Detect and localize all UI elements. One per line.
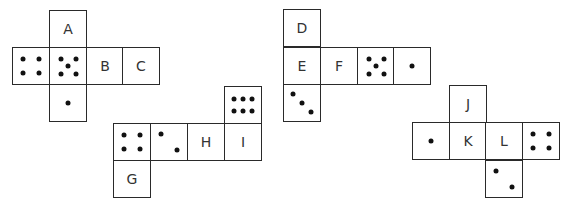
face-2-pips xyxy=(485,160,523,198)
face-l: L xyxy=(485,122,523,160)
face-j: J xyxy=(449,85,487,123)
face-label: K xyxy=(450,123,486,159)
pip-dot-icon xyxy=(429,139,434,144)
face-k: K xyxy=(449,122,487,160)
pip-dot-icon xyxy=(493,168,498,173)
pip-dot-icon xyxy=(546,146,551,151)
pip-dot-icon xyxy=(546,131,551,136)
pip-dot-icon xyxy=(531,131,536,136)
pip-dot-icon xyxy=(531,146,536,151)
face-4-pips xyxy=(522,122,560,160)
net-4: JKL xyxy=(0,0,564,207)
face-label: L xyxy=(486,123,522,159)
face-label: J xyxy=(450,86,486,122)
face-1-pips xyxy=(412,122,450,160)
pip-dot-icon xyxy=(510,185,515,190)
